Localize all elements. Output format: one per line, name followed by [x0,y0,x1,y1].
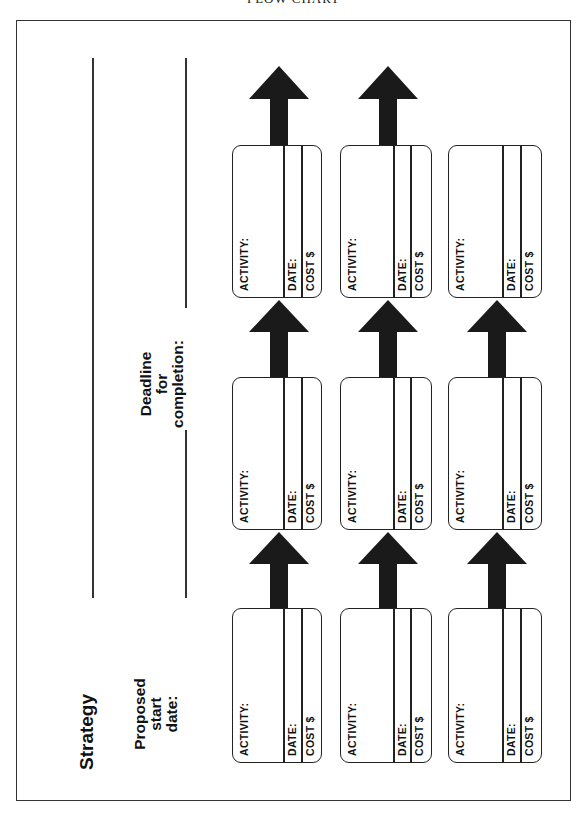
deadline-line-2: for [154,331,170,437]
activity-box[interactable]: ACTIVITY: DATE: COST $ [232,145,322,298]
strategy-line [92,58,94,598]
arrow-up-icon [247,300,311,377]
activity-field-label: ACTIVITY: [238,238,250,291]
deadline-label: Deadline for completion: [138,331,186,437]
cost-field-label: COST $ [413,483,425,523]
date-field-label: DATE: [396,490,408,523]
activity-box[interactable]: ACTIVITY: DATE: COST $ [448,608,542,763]
date-field-label: DATE: [286,490,298,523]
activity-field-label: ACTIVITY: [454,238,466,291]
cost-field-label: COST $ [304,483,316,523]
activity-field-label: ACTIVITY: [346,470,358,523]
date-divider [502,609,504,762]
deadline-line-3: completion: [170,331,186,437]
activity-field-label: ACTIVITY: [238,470,250,523]
date-divider [393,609,395,762]
proposed-line-1: Proposed [132,658,148,770]
proposed-line-3: date: [164,658,180,770]
cost-divider [410,378,412,529]
proposed-start-line [185,430,187,598]
activity-box[interactable]: ACTIVITY: DATE: COST $ [448,145,542,298]
cost-field-label: COST $ [523,251,535,291]
page-title: FLOW CHART [0,0,587,7]
cost-divider [520,146,522,297]
activity-box[interactable]: ACTIVITY: DATE: COST $ [340,608,432,763]
activity-field-label: ACTIVITY: [346,703,358,756]
cost-field-label: COST $ [413,716,425,756]
arrow-up-icon [356,300,420,377]
cost-divider [410,609,412,762]
activity-field-label: ACTIVITY: [346,238,358,291]
cost-field-label: COST $ [304,251,316,291]
date-field-label: DATE: [286,258,298,291]
cost-field-label: COST $ [523,716,535,756]
strategy-label: Strategy [76,694,98,770]
activity-box[interactable]: ACTIVITY: DATE: COST $ [340,145,432,298]
date-field-label: DATE: [505,258,517,291]
arrow-up-icon [247,532,311,608]
arrow-up-icon [356,532,420,608]
date-divider [393,146,395,297]
cost-field-label: COST $ [304,716,316,756]
cost-divider [301,146,303,297]
cost-divider [301,609,303,762]
activity-box[interactable]: ACTIVITY: DATE: COST $ [232,377,322,530]
date-divider [393,378,395,529]
cost-field-label: COST $ [523,483,535,523]
arrow-up-icon [465,532,529,608]
activity-field-label: ACTIVITY: [238,703,250,756]
arrow-up-icon [356,66,420,145]
arrow-up-icon [247,66,311,145]
date-divider [283,609,285,762]
cost-divider [520,609,522,762]
date-divider [502,146,504,297]
activity-box[interactable]: ACTIVITY: DATE: COST $ [340,377,432,530]
cost-divider [410,146,412,297]
date-field-label: DATE: [505,723,517,756]
activity-field-label: ACTIVITY: [454,470,466,523]
activity-box[interactable]: ACTIVITY: DATE: COST $ [448,377,542,530]
activity-box[interactable]: ACTIVITY: DATE: COST $ [232,608,322,763]
cost-divider [520,378,522,529]
proposed-line-2: start [148,658,164,770]
date-field-label: DATE: [396,723,408,756]
activity-field-label: ACTIVITY: [454,703,466,756]
proposed-start-label: Proposed start date: [132,658,180,770]
date-field-label: DATE: [286,723,298,756]
deadline-line-1: Deadline [138,331,154,437]
arrow-up-icon [465,300,529,377]
cost-divider [301,378,303,529]
date-field-label: DATE: [505,490,517,523]
date-divider [502,378,504,529]
date-field-label: DATE: [396,258,408,291]
deadline-line [185,58,187,308]
date-divider [283,146,285,297]
cost-field-label: COST $ [413,251,425,291]
date-divider [283,378,285,529]
